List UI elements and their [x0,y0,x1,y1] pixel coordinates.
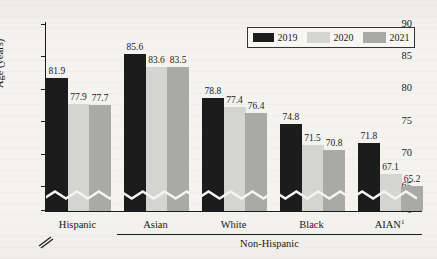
bar-value-asian-2019: 85.6 [120,43,150,53]
bar-aian-2019 [358,143,380,211]
bar-value-white-2021: 76.4 [241,102,271,112]
non-hispanic-group-rule [117,234,422,235]
bar-asian-2019 [124,54,146,211]
legend-swatch-2021 [363,32,386,43]
bar-black-2021 [323,150,345,211]
plot-area: 0657075808590 81.977.977.785.683.683.578… [45,22,422,212]
x-axis-label-hispanic: Hispanic [33,220,123,231]
chart-legend: 2019 2020 2021 [247,27,415,48]
bar-value-black-2019: 74.8 [276,113,306,123]
bar-value-black-2021: 70.8 [319,139,349,149]
legend-label-2021: 2021 [390,33,410,43]
x-axis-label-black: Black [267,220,357,231]
y-tick-label-85: 85 [402,51,413,62]
bar-value-aian-2020: 67.1 [376,163,406,173]
bar-asian-2020 [146,67,168,211]
bar-white-2019 [202,98,224,211]
x-axis-label-asian: Asian [111,220,201,231]
bar-asian-2021 [167,67,189,211]
bar-value-asian-2021: 83.5 [163,56,193,66]
bar-white-2020 [224,107,246,211]
bar-black-2020 [302,145,324,211]
legend-label-2020: 2020 [334,33,354,43]
bar-hispanic-2021 [89,105,111,211]
bar-chart: Age (years) 0657075808590 81.977.977.785… [0,0,437,259]
bar-hispanic-2020 [68,104,90,211]
legend-item-2021: 2021 [363,32,410,43]
bar-value-hispanic-2021: 77.7 [85,94,115,104]
bar-value-aian-2021: 65.2 [397,175,427,185]
legend-swatch-2019 [253,33,274,42]
legend-item-2019: 2019 [253,33,298,43]
legend-label-2019: 2019 [278,33,298,43]
legend-item-2020: 2020 [307,32,354,43]
x-axis-label-aian: AIAN1 [345,220,435,231]
bar-white-2021 [245,113,267,211]
y-tick-85 [41,56,46,57]
bar-value-aian-2019: 71.8 [354,132,384,142]
bar-value-white-2019: 78.8 [198,87,228,97]
y-tick-label-70: 70 [402,148,413,159]
bar-value-hispanic-2019: 81.9 [42,67,72,77]
y-axis-title: Age (years) [0,39,5,88]
y-tick-label-80: 80 [402,83,413,94]
non-hispanic-group-label: Non-Hispanic [67,239,437,250]
y-tick-label-75: 75 [402,116,413,127]
legend-swatch-2020 [307,32,330,43]
bar-aian-2021 [401,186,423,211]
y-tick-90 [41,24,46,25]
axis-break-icon [38,234,54,250]
x-axis-label-white: White [189,220,279,231]
